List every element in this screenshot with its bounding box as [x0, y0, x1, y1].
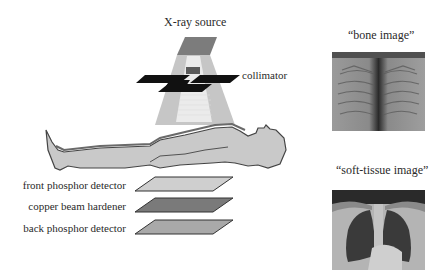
soft-tissue-image-label: “soft-tissue image” [336, 163, 428, 178]
copper-beam-hardener-label: copper beam hardener [28, 200, 126, 212]
bone-image [332, 52, 425, 131]
soft-tissue-image [332, 190, 425, 270]
front-phosphor-detector-label: front phosphor detector [23, 179, 126, 191]
collimator-label: collimator [242, 69, 287, 81]
back-phosphor-detector-plate [135, 220, 233, 234]
back-phosphor-detector-label: back phosphor detector [23, 222, 126, 234]
copper-beam-hardener-plate [135, 198, 233, 212]
front-phosphor-detector-plate [135, 177, 233, 191]
bone-image-label: “bone image” [348, 28, 414, 43]
collimator-aperture-icon [186, 67, 200, 74]
xray-source-label: X-ray source [164, 15, 226, 30]
xray-source-icon [177, 37, 217, 55]
patient-body-icon [46, 124, 286, 170]
